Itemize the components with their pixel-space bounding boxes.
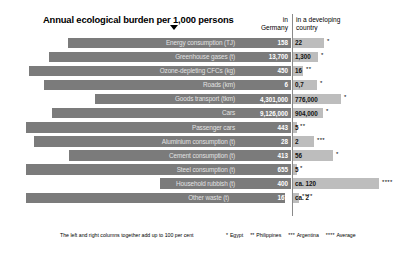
value-developing: 2: [295, 138, 299, 145]
legend: * Egypt** Philippines*** Argentina**** A…: [226, 232, 376, 238]
chart-footer: The left and right columns together add …: [0, 232, 384, 254]
column-header-developing-line1: in a developing: [296, 16, 358, 24]
value-developing: 0,7: [295, 81, 304, 88]
value-developing: 5: [295, 166, 299, 173]
value-developing: 904,000: [295, 110, 318, 117]
row-footnote-marker: ****: [382, 179, 393, 185]
value-germany: 13,700: [232, 53, 288, 60]
column-header-developing: in a developing country: [296, 16, 358, 32]
row-label: Household rubbish (t): [176, 180, 239, 187]
column-header-germany-line2: Germany: [240, 24, 288, 32]
legend-label: Philippines: [256, 232, 281, 238]
row-label: Other waste (t): [188, 194, 233, 201]
chart-row: Goods transport (tkm)4,301,000776,000*: [0, 92, 384, 106]
legend-item: **** Average: [326, 232, 356, 238]
value-germany: 9,126,000: [232, 110, 288, 117]
chart-row: Steel consumption (t)6555*: [0, 163, 384, 177]
value-germany: 655: [232, 166, 288, 173]
value-germany: 28: [232, 138, 288, 145]
row-footnote-marker: *: [326, 108, 329, 114]
value-developing: 5: [295, 124, 299, 131]
row-label: Steel consumption (t): [177, 166, 239, 173]
value-developing: 776,000: [295, 96, 318, 103]
chart-header: Annual ecological burden per 1,000 perso…: [0, 0, 384, 36]
chart-row: Aluminium consumption (t)282***: [0, 135, 384, 149]
row-label: Energy consumption (TJ): [166, 39, 239, 46]
column-header-germany-line1: in: [240, 16, 288, 24]
chart-row: Cement consumption (t)41356*: [0, 149, 384, 163]
legend-item: * Egypt: [226, 232, 243, 238]
page-title: Annual ecological burden per 1,000 perso…: [43, 14, 234, 25]
row-footnote-marker: *: [336, 151, 339, 157]
chart-row: Passenger cars4435**: [0, 121, 384, 135]
triangle-marker-icon: [170, 25, 178, 30]
value-developing: 56: [295, 152, 302, 159]
row-footnote-marker: *: [320, 80, 323, 86]
value-developing: ca. 120: [295, 180, 316, 187]
column-header-developing-line2: country: [296, 24, 358, 32]
value-developing: 16: [295, 67, 302, 74]
legend-item: *** Argentina: [288, 232, 319, 238]
chart-row: Greenhouse gases (t)13,7001,300*: [0, 50, 384, 64]
row-footnote-marker: ***: [317, 137, 325, 143]
legend-label: Egypt: [230, 232, 243, 238]
row-footnote-marker: **: [300, 123, 305, 129]
chart-row: Roads (km)60,7*: [0, 78, 384, 92]
value-germany: 400: [232, 180, 288, 187]
chart-row: Other waste (t)167ca. 2****: [0, 191, 384, 205]
value-germany: 450: [232, 67, 288, 74]
row-label: Ozone-depleting CFCs (kg): [160, 67, 239, 74]
chart-rows: Energy consumption (TJ)15822*Greenhouse …: [0, 36, 384, 205]
legend-label: Argentina: [297, 232, 319, 238]
column-header-germany: in Germany: [240, 16, 288, 32]
value-developing: 22: [295, 39, 302, 46]
legend-label: Average: [336, 232, 355, 238]
row-footnote-marker: **: [306, 66, 311, 72]
value-germany: 167: [232, 194, 288, 201]
legend-marker: ****: [326, 232, 337, 238]
row-footnote-marker: *: [300, 165, 303, 171]
row-footnote-marker: *: [321, 52, 324, 58]
chart-row: Energy consumption (TJ)15822*: [0, 36, 384, 50]
value-germany: 413: [232, 152, 288, 159]
legend-marker: ***: [288, 232, 296, 238]
value-germany: 443: [232, 124, 288, 131]
chart-row: Household rubbish (t)400ca. 120****: [0, 177, 384, 191]
footer-note: The left and right columns together add …: [60, 232, 194, 238]
row-label: Cement consumption (t): [169, 152, 239, 159]
row-label: Goods transport (tkm): [175, 95, 239, 102]
row-footnote-marker: ****: [302, 193, 313, 199]
row-footnote-marker: *: [327, 38, 330, 44]
value-germany: 158: [232, 39, 288, 46]
value-germany: 6: [232, 81, 288, 88]
chart-row: Cars9,126,000904,000*: [0, 106, 384, 120]
value-developing: 1,300: [295, 53, 311, 60]
row-footnote-marker: *: [344, 94, 347, 100]
value-germany: 4,301,000: [232, 96, 288, 103]
row-label: Aluminium consumption (t): [162, 138, 239, 145]
row-label: Greenhouse gases (t): [175, 53, 239, 60]
chart-row: Ozone-depleting CFCs (kg)45016**: [0, 64, 384, 78]
legend-item: ** Philippines: [250, 232, 281, 238]
